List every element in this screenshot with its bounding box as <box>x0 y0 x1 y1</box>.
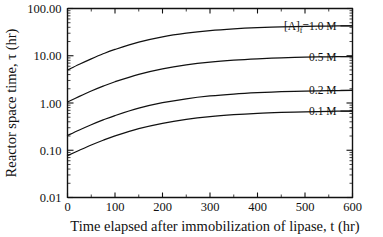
log-line-chart: 100.0010.001.000.100.01 0100200300400500… <box>0 0 383 237</box>
x-axis-ticks <box>68 9 353 198</box>
series-label-4: 0.1 M <box>309 105 336 117</box>
plot-axes <box>68 8 354 198</box>
x-tick-label: 500 <box>296 200 315 214</box>
y-tick-label: 0.01 <box>40 191 62 205</box>
y-tick-label: 100.00 <box>27 2 61 16</box>
series-label-3: 0.2 M <box>309 84 336 96</box>
x-tick-label: 600 <box>343 200 362 214</box>
series-label-2: 0.5 M <box>309 51 336 63</box>
x-tick-label: 200 <box>153 200 172 214</box>
x-tick-label: 0 <box>64 200 70 214</box>
x-tick-label: 100 <box>106 200 125 214</box>
x-tick-label: 400 <box>248 200 267 214</box>
series-labels: [A]f=1.0 M0.5 M0.2 M0.1 M <box>284 20 353 117</box>
y-tick-label: 10.00 <box>33 49 61 63</box>
y-axis-title: Reactor space time, τ (hr) <box>3 28 20 177</box>
y-axis-tick-labels: 100.0010.001.000.100.01 <box>27 2 61 205</box>
y-tick-label: 1.00 <box>40 97 62 111</box>
x-axis-title: Time elapsed after immobilization of lip… <box>70 218 360 235</box>
x-tick-label: 300 <box>201 200 220 214</box>
x-axis-tick-labels: 0100200300400500600 <box>64 200 362 214</box>
series-label-1: [A]f=1.0 M <box>284 20 337 35</box>
curve-1 <box>68 26 353 70</box>
y-tick-label: 0.10 <box>40 144 62 158</box>
y-axis-ticks <box>68 9 353 198</box>
figure-root: 100.0010.001.000.100.01 0100200300400500… <box>0 0 383 237</box>
